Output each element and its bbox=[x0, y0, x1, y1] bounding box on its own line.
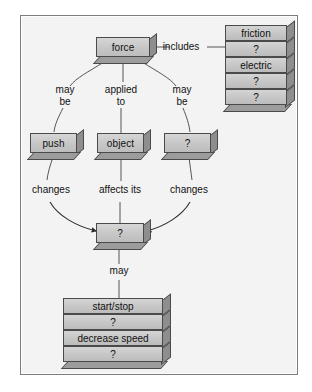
node-unknown-pull[interactable]: ? bbox=[164, 133, 211, 153]
label-changes-left: changes bbox=[25, 184, 77, 196]
label-may-be-right: may be bbox=[160, 84, 204, 107]
stack-force-types-bottom bbox=[223, 104, 292, 112]
stack-row-label: start/stop bbox=[63, 298, 163, 314]
link-unknown-to-changes bbox=[189, 157, 192, 180]
link-changes-left-to-converge bbox=[50, 202, 96, 231]
link-maybe-right-to-unknown bbox=[183, 108, 190, 132]
node-force-label: force bbox=[96, 37, 150, 57]
stack-row-label: friction bbox=[225, 25, 287, 41]
label-applied-to: applied to bbox=[97, 84, 145, 107]
label-affects-its: affects its bbox=[89, 184, 151, 196]
stack-row[interactable]: ? bbox=[63, 314, 163, 330]
node-converge-unknown[interactable]: ? bbox=[96, 223, 144, 243]
link-maybe-left-to-push bbox=[54, 108, 63, 132]
label-changes-right: changes bbox=[163, 184, 215, 196]
node-object-bottom bbox=[94, 152, 148, 160]
node-push-label: push bbox=[30, 133, 77, 153]
link-force-to-push bbox=[70, 62, 104, 86]
node-converge-bottom bbox=[93, 242, 148, 250]
stack-outcomes-bottom bbox=[61, 361, 168, 369]
label-may: may bbox=[98, 265, 140, 277]
stack-row[interactable]: electric bbox=[225, 57, 287, 73]
link-changes-right-to-converge bbox=[147, 202, 190, 231]
stack-row[interactable]: start/stop bbox=[63, 298, 163, 314]
node-object[interactable]: object bbox=[97, 133, 144, 153]
stack-row[interactable]: ? bbox=[63, 346, 163, 362]
stack-row-label: ? bbox=[63, 346, 163, 362]
node-converge-label: ? bbox=[96, 223, 144, 243]
stack-row-label: ? bbox=[225, 89, 287, 105]
stack-row[interactable]: decrease speed bbox=[63, 330, 163, 346]
node-object-label: object bbox=[97, 133, 144, 153]
link-push-to-changes bbox=[47, 157, 53, 180]
node-unknown-pull-label: ? bbox=[164, 133, 211, 153]
node-push-bottom bbox=[27, 152, 81, 160]
link-force-to-right bbox=[142, 62, 176, 86]
stack-force-types[interactable]: friction ? electric ? ? bbox=[225, 25, 287, 105]
stack-row[interactable]: friction bbox=[225, 25, 287, 41]
stack-row-label: ? bbox=[63, 314, 163, 330]
label-may-be-left: may be bbox=[43, 84, 87, 107]
stack-outcomes[interactable]: start/stop ? decrease speed ? bbox=[63, 298, 163, 362]
stack-row-label: electric bbox=[225, 57, 287, 73]
stack-row[interactable]: ? bbox=[225, 89, 287, 105]
stack-row-label: decrease speed bbox=[63, 330, 163, 346]
stack-row-label: ? bbox=[225, 73, 287, 89]
label-includes: includes bbox=[157, 41, 205, 53]
stack-row-label: ? bbox=[225, 41, 287, 57]
node-force[interactable]: force bbox=[96, 37, 150, 57]
stack-row[interactable]: ? bbox=[225, 41, 287, 57]
stack-row[interactable]: ? bbox=[225, 73, 287, 89]
diagram-canvas: force includes friction ? electric ? ? m… bbox=[0, 0, 312, 392]
node-unknown-pull-bottom bbox=[161, 152, 215, 160]
node-force-bottom bbox=[93, 56, 154, 64]
node-push[interactable]: push bbox=[30, 133, 77, 153]
